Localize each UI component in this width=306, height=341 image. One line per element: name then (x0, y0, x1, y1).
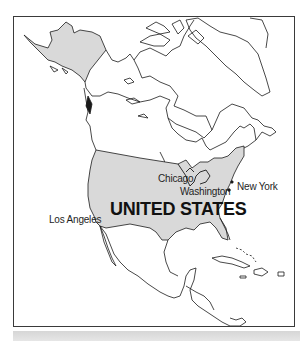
city-label-chicago: Chicago (158, 173, 193, 184)
city-label-washington: Washington (180, 186, 230, 197)
central-america (192, 300, 246, 326)
canada-outline (85, 50, 212, 138)
cuba-outline (212, 256, 250, 268)
city-label-los-angeles: Los Angeles (49, 214, 101, 225)
greenland-outline (186, 18, 270, 96)
north-america-map (13, 16, 295, 327)
city-label-new-york: New York (237, 181, 278, 192)
map-frame (13, 16, 295, 327)
country-label-united-states: UNITED STATES (110, 199, 246, 220)
bottom-bar (13, 331, 300, 341)
